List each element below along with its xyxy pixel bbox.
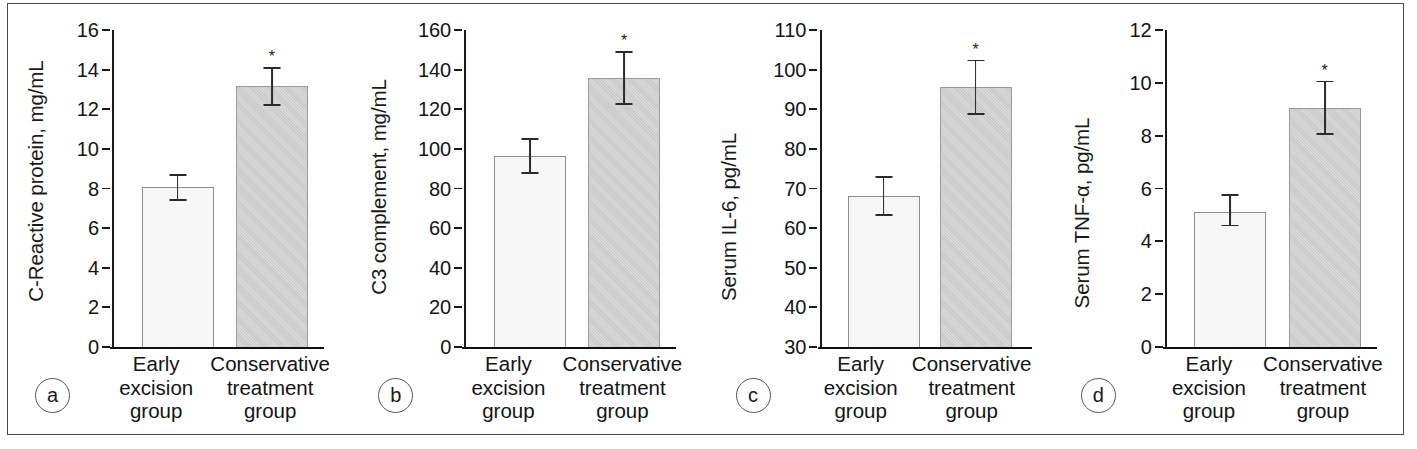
category-labels-d: Earlyexcisiongroup Conservativetreatment… bbox=[1155, 352, 1383, 430]
error-bar bbox=[975, 61, 977, 114]
y-axis-tick-label: 6 bbox=[88, 218, 99, 238]
y-axis-line-b bbox=[464, 30, 466, 347]
y-axis-tick-label: 4 bbox=[88, 258, 99, 278]
category-label-line: treatment bbox=[1263, 376, 1383, 400]
chart-panel-a: C-Reactive protein, mg/mL 0246810121416*… bbox=[7, 3, 356, 435]
y-axis-tick bbox=[809, 267, 817, 269]
y-axis-tick-label: 60 bbox=[429, 218, 451, 238]
y-axis-tick bbox=[102, 148, 110, 150]
y-axis-tick bbox=[1155, 346, 1163, 348]
panel-letter-a: a bbox=[35, 378, 70, 413]
y-axis-tick-label: 40 bbox=[429, 258, 451, 278]
error-bar-cap-upper bbox=[263, 67, 280, 69]
category-label-line: excision bbox=[1155, 376, 1263, 400]
y-axis-tick-label: 90 bbox=[784, 99, 806, 119]
significance-asterisk: * bbox=[972, 42, 978, 58]
significance-asterisk: * bbox=[269, 49, 275, 65]
y-axis-tick-label: 8 bbox=[88, 179, 99, 199]
category-label-line: treatment bbox=[210, 376, 330, 400]
category-label-line: excision bbox=[102, 376, 210, 400]
y-axis-tick bbox=[102, 188, 110, 190]
bar-conservative-treatment bbox=[940, 87, 1012, 347]
panel-letter-c: c bbox=[736, 378, 771, 413]
y-axis-tick-label: 0 bbox=[440, 337, 451, 357]
error-bar-cap-lower bbox=[521, 172, 538, 174]
y-axis-tick bbox=[809, 306, 817, 308]
category-label-line: group bbox=[912, 399, 1032, 423]
x-axis-line-c bbox=[818, 347, 1032, 350]
y-axis-tick-label: 80 bbox=[429, 179, 451, 199]
y-axis-tick-label: 70 bbox=[784, 179, 806, 199]
category-label-line: Early bbox=[102, 352, 210, 376]
error-bar-cap-lower bbox=[1316, 133, 1333, 135]
category-labels-a: Earlyexcisiongroup Conservativetreatment… bbox=[102, 352, 330, 430]
category-label-conservative-treatment: Conservativetreatmentgroup bbox=[563, 352, 683, 423]
y-axis-tick-label: 100 bbox=[773, 60, 806, 80]
category-label-line: group bbox=[563, 399, 683, 423]
error-bar-cap-lower bbox=[967, 113, 984, 115]
error-bar-cap-upper bbox=[169, 174, 186, 176]
y-axis-tick-label: 120 bbox=[418, 99, 451, 119]
y-axis-tick-label: 0 bbox=[1141, 337, 1152, 357]
y-axis-tick bbox=[454, 227, 462, 229]
y-axis-tick-label: 80 bbox=[784, 139, 806, 159]
y-axis-tick-label: 100 bbox=[418, 139, 451, 159]
category-label-line: Early bbox=[810, 352, 912, 376]
y-axis-tick bbox=[454, 108, 462, 110]
error-bar bbox=[271, 68, 273, 106]
y-axis-label-c: Serum IL-6, pg/mL bbox=[714, 47, 744, 387]
chart-panel-d: Serum TNF-α, pg/mL 024681012* Earlyexcis… bbox=[1055, 3, 1404, 435]
category-label-line: excision bbox=[810, 376, 912, 400]
y-axis-tick bbox=[1155, 29, 1163, 31]
category-label-conservative-treatment: Conservativetreatmentgroup bbox=[1263, 352, 1383, 423]
error-bar bbox=[177, 175, 179, 201]
y-axis-tick bbox=[1155, 293, 1163, 295]
y-axis-line-c bbox=[820, 30, 822, 347]
category-label-line: group bbox=[454, 399, 562, 423]
plot-area-a: 0246810121416* bbox=[112, 30, 317, 347]
y-axis-tick-label: 16 bbox=[77, 20, 99, 40]
category-label-line: treatment bbox=[563, 376, 683, 400]
category-label-line: Conservative bbox=[912, 352, 1032, 376]
y-axis-tick bbox=[1155, 135, 1163, 137]
plot-area-b: 020406080100120140160* bbox=[464, 30, 669, 347]
y-axis-tick-label: 110 bbox=[775, 20, 807, 40]
y-axis-tick bbox=[102, 227, 110, 229]
y-axis-tick bbox=[102, 306, 110, 308]
y-axis-tick bbox=[1155, 240, 1163, 242]
y-axis-tick-label: 50 bbox=[784, 258, 806, 278]
y-axis-tick-label: 12 bbox=[1130, 20, 1152, 40]
y-axis-label-b: C3 complement, mg/mL bbox=[364, 17, 394, 357]
y-axis-tick-label: 20 bbox=[429, 297, 451, 317]
y-axis-tick-label: 6 bbox=[1141, 179, 1152, 199]
y-axis-tick-label: 140 bbox=[418, 60, 451, 80]
category-label-conservative-treatment: Conservativetreatmentgroup bbox=[210, 352, 330, 423]
y-axis-line-d bbox=[1165, 30, 1167, 347]
chart-panel-c: Serum IL-6, pg/mL 30405060708090100110* … bbox=[706, 3, 1055, 435]
y-axis-tick-label: 30 bbox=[784, 337, 806, 357]
category-label-line: Conservative bbox=[210, 352, 330, 376]
error-bar-cap-lower bbox=[875, 214, 892, 216]
y-axis-line-a bbox=[112, 30, 114, 347]
bar-early-excision bbox=[1194, 212, 1266, 347]
bar-conservative-treatment bbox=[1289, 108, 1361, 347]
bar-conservative-treatment bbox=[236, 86, 308, 347]
y-axis-tick bbox=[1155, 188, 1163, 190]
y-axis-tick bbox=[454, 306, 462, 308]
significance-asterisk: * bbox=[621, 33, 627, 49]
error-bar bbox=[883, 177, 885, 215]
plot-area-d: 024681012* bbox=[1165, 30, 1370, 347]
error-bar bbox=[1324, 82, 1326, 135]
error-bar-cap-upper bbox=[875, 176, 892, 178]
category-label-early-excision: Earlyexcisiongroup bbox=[810, 352, 912, 423]
category-label-early-excision: Earlyexcisiongroup bbox=[102, 352, 210, 423]
y-axis-tick bbox=[809, 227, 817, 229]
y-axis-tick bbox=[102, 69, 110, 71]
y-axis-tick bbox=[809, 346, 817, 348]
y-axis-tick-label: 14 bbox=[77, 60, 99, 80]
error-bar-cap-upper bbox=[616, 51, 633, 53]
y-axis-tick-label: 0 bbox=[88, 337, 99, 357]
y-axis-tick bbox=[454, 29, 462, 31]
error-bar-cap-lower bbox=[1222, 225, 1239, 227]
category-labels-b: Earlyexcisiongroup Conservativetreatment… bbox=[454, 352, 682, 430]
